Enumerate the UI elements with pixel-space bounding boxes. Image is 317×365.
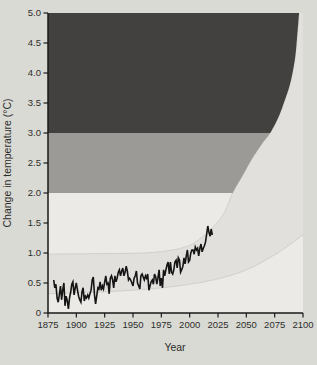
y-tick-label: 3.0 — [28, 127, 41, 138]
chart-canvas: 00.51.01.52.02.53.03.54.04.55.0187519001… — [0, 0, 317, 365]
chart-layers: 00.51.01.52.02.53.03.54.04.55.0187519001… — [28, 7, 314, 330]
y-tick-label: 5.0 — [28, 7, 41, 18]
x-tick-label: 1975 — [151, 319, 172, 330]
y-tick-label: 1.5 — [28, 217, 41, 228]
x-tick-label: 1900 — [66, 319, 87, 330]
band-3-5C — [48, 13, 299, 133]
y-tick-label: 1.0 — [28, 247, 41, 258]
x-tick-label: 2050 — [236, 319, 257, 330]
y-tick-label: 0.5 — [28, 277, 41, 288]
x-tick-label: 2075 — [264, 319, 285, 330]
temperature-projection-figure: 00.51.01.52.02.53.03.54.04.55.0187519001… — [0, 0, 317, 365]
y-axis-title: Change in temperature (°C) — [1, 98, 13, 227]
y-tick-label: 3.5 — [28, 97, 41, 108]
x-tick-label: 1950 — [122, 319, 143, 330]
y-tick-label: 2.5 — [28, 157, 41, 168]
x-tick-label: 2000 — [179, 319, 200, 330]
x-tick-label: 1925 — [94, 319, 115, 330]
x-tick-label: 2100 — [292, 319, 313, 330]
y-tick-label: 4.5 — [28, 37, 41, 48]
y-tick-label: 0 — [36, 307, 41, 318]
x-axis-title: Year — [164, 341, 186, 353]
x-tick-label: 1875 — [37, 319, 58, 330]
y-tick-label: 2.0 — [28, 187, 41, 198]
y-tick-label: 4.0 — [28, 67, 41, 78]
x-tick-label: 2025 — [207, 319, 228, 330]
band-2-3C — [48, 133, 270, 193]
